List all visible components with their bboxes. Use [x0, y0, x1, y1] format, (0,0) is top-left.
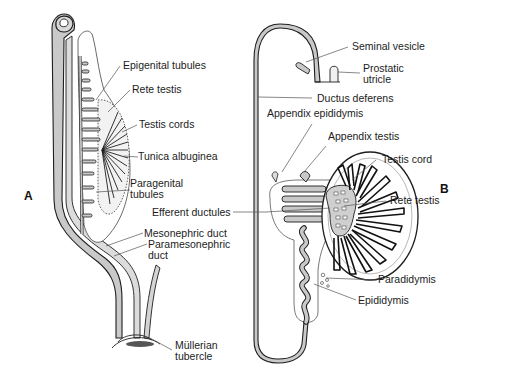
label-rete-testis-a: Rete testis: [132, 84, 182, 95]
label-prostatic-utricle: Prostatic utricle: [363, 63, 404, 85]
panel-label-a: A: [24, 189, 33, 203]
label-prostatic-line2: utricle: [363, 74, 404, 85]
label-testis-cords: Testis cords: [139, 119, 194, 130]
label-paragenital-tubules: Paragenital tubules: [130, 178, 183, 200]
label-efferent-ductules: Efferent ductules: [152, 207, 231, 218]
label-appendix-testis: Appendix testis: [328, 131, 399, 142]
anatomy-figure: A B Epigenital tubules Rete testis Testi…: [0, 0, 511, 373]
label-paramesonephric-duct: Paramesonephric duct: [148, 239, 230, 261]
label-testis-cord: Testis cord: [382, 154, 432, 165]
diagram-drawing: [0, 0, 511, 373]
label-epididymis: Epididymis: [358, 295, 409, 306]
label-ductus-deferens: Ductus deferens: [317, 93, 393, 104]
label-rete-testis-b: Rete testis: [390, 195, 440, 206]
label-appendix-epididymis: Appendix epididymis: [267, 108, 363, 119]
label-paradidymis: Paradidymis: [378, 274, 436, 285]
label-epigenital-tubules: Epigenital tubules: [123, 60, 206, 71]
panel-label-b: B: [440, 182, 449, 196]
label-mullerian-line2: tubercle: [175, 351, 218, 362]
label-seminal-vesicle: Seminal vesicle: [352, 41, 425, 52]
label-paragenital-line2: tubules: [130, 189, 183, 200]
label-mullerian-tubercle: Müllerian tubercle: [175, 340, 218, 362]
label-tunica-albuginea: Tunica albuginea: [138, 151, 218, 162]
label-paramesonephric-line2: duct: [148, 250, 230, 261]
